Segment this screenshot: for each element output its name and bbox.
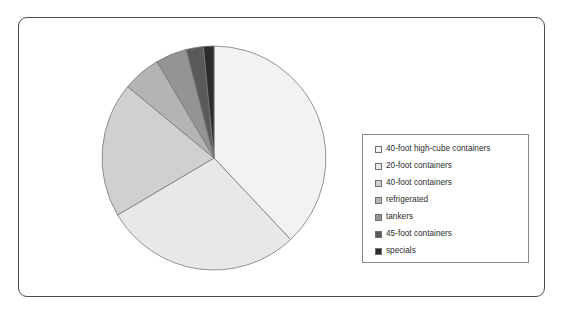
- legend-item-3[interactable]: refrigerated: [363, 192, 528, 209]
- legend-label-1: 20-foot containers: [386, 162, 452, 170]
- legend-label-0: 40-foot high-cube containers: [386, 145, 490, 153]
- legend-swatch-icon-1: [375, 163, 382, 170]
- chart-page: 40-foot high-cube containers 20-foot con…: [0, 0, 562, 317]
- legend-swatch-icon-5: [375, 231, 382, 238]
- legend-label-5: 45-foot containers: [386, 230, 452, 238]
- legend-item-5[interactable]: 45-foot containers: [363, 226, 528, 243]
- legend-item-2[interactable]: 40-foot containers: [363, 175, 528, 192]
- chart-legend: 40-foot high-cube containers 20-foot con…: [362, 134, 529, 263]
- pie-slices-group: [102, 46, 326, 270]
- figure-frame: 40-foot high-cube containers 20-foot con…: [18, 17, 545, 297]
- legend-label-2: 40-foot containers: [386, 179, 452, 187]
- legend-swatch-icon-2: [375, 180, 382, 187]
- legend-item-1[interactable]: 20-foot containers: [363, 158, 528, 175]
- legend-swatch-icon-6: [375, 248, 382, 255]
- legend-swatch-icon-0: [375, 146, 382, 153]
- legend-label-6: specials: [386, 247, 416, 255]
- legend-swatch-icon-3: [375, 197, 382, 204]
- legend-swatch-icon-4: [375, 214, 382, 221]
- legend-label-4: tankers: [386, 213, 413, 221]
- pie-chart-svg: [83, 24, 345, 292]
- legend-item-0[interactable]: 40-foot high-cube containers: [363, 141, 528, 158]
- legend-item-4[interactable]: tankers: [363, 209, 528, 226]
- pie-chart-area: [83, 24, 345, 292]
- legend-item-6[interactable]: specials: [363, 243, 528, 260]
- legend-label-3: refrigerated: [386, 196, 428, 204]
